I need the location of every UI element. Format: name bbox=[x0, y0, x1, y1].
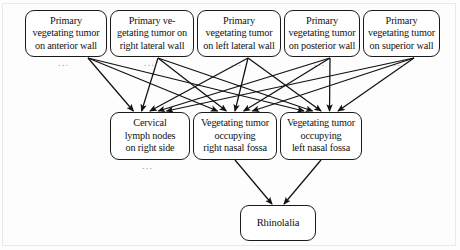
node-n4-line-1: vegetating tumor bbox=[289, 27, 356, 40]
node-m3-line-1: occupying bbox=[300, 130, 341, 143]
edge-n4-to-m1 bbox=[158, 58, 330, 111]
node-m1-line-1: lymph nodes bbox=[125, 130, 176, 143]
node-n2-line-0: Primary ve- bbox=[129, 15, 176, 28]
node-n4-line-0: Primary bbox=[306, 15, 338, 28]
ellipsis-m1: ... bbox=[142, 162, 153, 170]
edge-m3-to-b1 bbox=[284, 160, 321, 204]
node-n1-line-0: Primary bbox=[50, 15, 82, 28]
edge-n3-to-m3 bbox=[248, 58, 321, 111]
node-b1-line-0: Rhinolalia bbox=[257, 217, 300, 230]
node-n5-line-0: Primary bbox=[386, 15, 418, 28]
node-m1-line-0: Cervical bbox=[133, 117, 166, 130]
node-m1[interactable]: Cervicallymph nodeson right side bbox=[110, 112, 190, 160]
node-m2[interactable]: Vegetating tumoroccupyingright nasal fos… bbox=[193, 112, 277, 160]
node-n3-line-0: Primary bbox=[223, 15, 255, 28]
node-n4[interactable]: Primaryvegetating tumoron posterior wall bbox=[284, 10, 360, 57]
ellipsis-n1: ... bbox=[58, 59, 69, 67]
node-n3-line-1: vegetating tumor bbox=[206, 27, 273, 40]
node-m2-line-2: right nasal fossa bbox=[203, 142, 267, 155]
edge-n2-to-m2 bbox=[158, 58, 226, 111]
node-n2-line-1: getating tumor on bbox=[117, 27, 187, 40]
node-m2-line-0: Vegetating tumor bbox=[201, 117, 269, 130]
edge-n1-to-m3 bbox=[88, 58, 304, 111]
node-n5-line-2: on superior wall bbox=[370, 40, 434, 53]
node-m2-line-1: occupying bbox=[214, 130, 255, 143]
ellipsis-n2: ... bbox=[144, 59, 155, 67]
node-n3-line-2: on left lateral wall bbox=[203, 40, 274, 53]
node-n5-line-1: vegetating tumor bbox=[368, 27, 435, 40]
node-n5[interactable]: Primaryvegetating tumoron superior wall bbox=[363, 10, 440, 57]
ellipsis-n4: ... bbox=[314, 59, 325, 67]
edge-n5-to-m2 bbox=[252, 58, 414, 111]
ellipsis-n3: ... bbox=[231, 59, 242, 67]
node-m3-line-2: left nasal fossa bbox=[292, 142, 350, 155]
node-n3[interactable]: Primaryvegetating tumoron left lateral w… bbox=[197, 10, 281, 57]
node-n1-line-2: on anterior wall bbox=[35, 40, 97, 53]
node-m3[interactable]: Vegetating tumoroccupyingleft nasal foss… bbox=[280, 112, 362, 160]
node-n1[interactable]: Primaryvegetating tumoron anterior wall bbox=[25, 10, 107, 57]
node-n2-line-2: right lateral wall bbox=[120, 40, 185, 53]
edge-n1-to-m1 bbox=[88, 58, 133, 111]
diagram-canvas: Primaryvegetating tumoron anterior wall.… bbox=[0, 0, 460, 250]
node-m1-line-2: on right side bbox=[126, 142, 175, 155]
node-n4-line-2: on posterior wall bbox=[289, 40, 355, 53]
ellipsis-n5: ... bbox=[394, 59, 405, 67]
node-n2[interactable]: Primary ve-getating tumor onright latera… bbox=[110, 10, 194, 57]
node-b1[interactable]: Rhinolalia bbox=[240, 205, 316, 241]
node-m3-line-0: Vegetating tumor bbox=[287, 117, 355, 130]
edge-m2-to-b1 bbox=[235, 160, 272, 204]
node-n1-line-1: vegetating tumor bbox=[33, 27, 100, 40]
